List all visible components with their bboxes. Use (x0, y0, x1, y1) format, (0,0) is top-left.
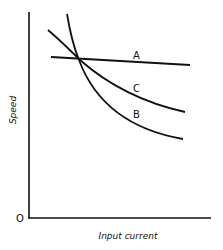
y-axis-title: Speed (8, 96, 18, 125)
curve-b-label: B (133, 109, 140, 120)
curve-a-label: A (133, 50, 140, 61)
x-axis-title: Input current (99, 231, 158, 241)
curve-a (51, 57, 190, 65)
curve-c-label: C (133, 83, 140, 94)
speed-current-diagram: A C B O Speed Input current (0, 0, 223, 250)
origin-label: O (16, 213, 24, 224)
curve-c (48, 30, 185, 112)
curve-b (67, 14, 183, 139)
